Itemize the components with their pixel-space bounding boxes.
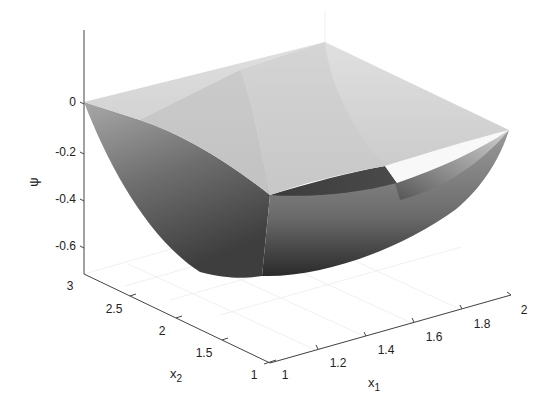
x1-axis-label: x1: [368, 375, 381, 393]
x2-tick-label: 3: [67, 279, 74, 293]
x2-tick-labels: 3 2.5 2 1.5 1: [67, 279, 258, 382]
x1-tick-label: 2: [521, 303, 528, 317]
x2-tick-label: 2: [159, 324, 166, 338]
x2-axis-label: x2: [170, 366, 183, 384]
x1-tick-label: 1.8: [474, 317, 491, 331]
x1-tick-label: 1.4: [378, 343, 395, 357]
x1-tick-label: 1: [282, 368, 289, 382]
x2-tick-label: 1: [251, 368, 258, 382]
x2-tick-label: 1.5: [196, 346, 213, 360]
x2-axis-line: [84, 274, 270, 363]
z-axis-label: ψ: [26, 177, 41, 186]
z-tick-label: -0.6: [55, 239, 76, 253]
z-tick-labels: 0 -0.2 -0.4 -0.6: [55, 95, 76, 253]
z-tick-label: 0: [69, 95, 76, 109]
x1-tick-label: 1.2: [330, 356, 347, 370]
x2-tick-label: 2.5: [106, 302, 123, 316]
x1-tick-label: 1.6: [426, 330, 443, 344]
z-tick-label: -0.2: [55, 145, 76, 159]
z-tick-label: -0.4: [55, 192, 76, 206]
surface-plot: 0 -0.2 -0.4 -0.6 ψ 3 2.5 2 1.5 1 x2 1 1.…: [0, 0, 553, 413]
